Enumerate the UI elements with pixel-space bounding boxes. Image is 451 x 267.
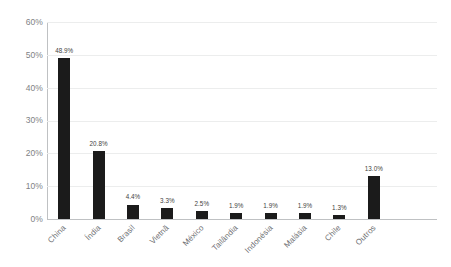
bar-slot: 2.5% — [185, 22, 219, 219]
bar-value-label: 4.4% — [126, 194, 141, 200]
bar-value-label: 1.9% — [229, 203, 244, 209]
x-slot: Brasil — [116, 221, 150, 267]
bar-slot: 3.3% — [150, 22, 184, 219]
y-tick-label: 60% — [3, 18, 43, 27]
x-axis-category-labels: China Índia Brasil Vietnã México Tailând… — [47, 221, 437, 267]
bar-slot: 1.9% — [288, 22, 322, 219]
y-tick-label: 30% — [3, 116, 43, 125]
bar-slot: 48.9% — [47, 22, 81, 219]
bar-slot: 20.8% — [81, 22, 115, 219]
x-slot: Outros — [357, 221, 391, 267]
bar-slot: 4.4% — [116, 22, 150, 219]
y-axis-tick-labels: 60% 50% 40% 30% 20% 10% 0% — [0, 0, 43, 267]
y-tick-label: 50% — [3, 51, 43, 60]
bar-slot: 1.3% — [322, 22, 356, 219]
bar-chart: 60% 50% 40% 30% 20% 10% 0% 48.9% 20.8% 4… — [0, 0, 451, 267]
bar-value-label: 3.3% — [160, 198, 175, 204]
bar-china[interactable] — [58, 58, 70, 219]
y-tick-label: 0% — [3, 215, 43, 224]
x-slot: Vietnã — [150, 221, 184, 267]
x-slot: Índia — [81, 221, 115, 267]
bar-outros[interactable] — [368, 176, 380, 219]
x-slot: China — [47, 221, 81, 267]
y-tick-label: 10% — [3, 182, 43, 191]
bar-slot: 1.9% — [219, 22, 253, 219]
x-slot: Chile — [322, 221, 356, 267]
bar-value-label: 1.9% — [263, 203, 278, 209]
bar-value-label: 48.9% — [55, 48, 73, 54]
bar-slot: 1.9% — [253, 22, 287, 219]
x-slot: Malásia — [288, 221, 322, 267]
plot-area: 48.9% 20.8% 4.4% 3.3% 2.5% 1.9% 1.9% — [47, 22, 437, 219]
bar-value-label: 2.5% — [195, 201, 210, 207]
y-tick-label: 20% — [3, 149, 43, 158]
y-tick-label: 40% — [3, 84, 43, 93]
bar-value-label: 13.0% — [365, 166, 383, 172]
bar-india[interactable] — [93, 151, 105, 219]
bar-slot: 13.0% — [357, 22, 391, 219]
bar-value-label: 1.3% — [332, 205, 347, 211]
bar-value-label: 20.8% — [90, 141, 108, 147]
